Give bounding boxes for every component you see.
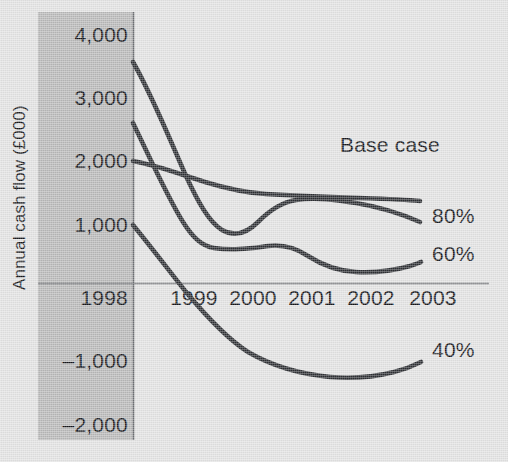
y-tick-minus-2000: –2,000 [63, 413, 128, 436]
y-tick-4000: 4,000 [74, 23, 128, 46]
y-axis-title: Annual cash flow (£000) [10, 105, 29, 290]
chart-canvas: Annual cash flow (£000) 4,000 3,000 2,00… [0, 0, 508, 462]
series-label-40: 40% [432, 338, 475, 361]
series-line-base-case [133, 161, 420, 201]
x-tick-2003: 2003 [409, 286, 457, 309]
series-label-80: 80% [432, 204, 475, 227]
x-tick-1999: 1999 [170, 286, 218, 309]
y-tick-2000: 2,000 [74, 149, 128, 172]
x-tick-2000: 2000 [229, 286, 277, 309]
series-label-base-case: Base case [340, 133, 440, 156]
cash-flow-chart: Annual cash flow (£000) 4,000 3,000 2,00… [0, 0, 508, 462]
y-tick-3000: 3,000 [74, 86, 128, 109]
series-label-60: 60% [432, 242, 475, 265]
y-tick-minus-1000: –1,000 [63, 349, 128, 372]
x-tick-2002: 2002 [347, 286, 395, 309]
x-tick-1998: 1998 [80, 286, 128, 309]
y-tick-1000: 1,000 [74, 213, 128, 236]
x-tick-2001: 2001 [288, 286, 336, 309]
